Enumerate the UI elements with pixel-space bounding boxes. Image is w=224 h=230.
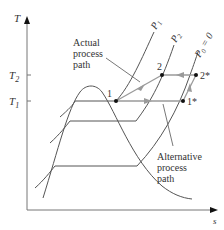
point-1: [114, 99, 118, 103]
actual-leader-line: [106, 58, 140, 82]
t2-label: T2: [9, 69, 19, 84]
p2-label: P2: [168, 30, 185, 46]
point-2-star: [194, 73, 198, 77]
svg-text:process: process: [73, 48, 103, 59]
alternative-annotation: Alternative process path: [157, 151, 203, 184]
svg-text:Alternative: Alternative: [157, 151, 203, 162]
t-axis-arrow-icon: [24, 16, 30, 24]
point-2-label: 2: [157, 61, 162, 72]
svg-text:path: path: [157, 173, 174, 184]
actual-annotation: Actual process path: [73, 37, 103, 70]
process-paths: [116, 75, 196, 101]
svg-text:path: path: [73, 59, 90, 70]
svg-text:Actual: Actual: [73, 37, 100, 48]
point-2: [160, 73, 164, 77]
t1-label: T1: [9, 95, 19, 110]
ts-diagram: T s T2 T1 P1 P2 P0 = 0 1 2 2* 1*: [0, 0, 224, 230]
svg-text:process: process: [157, 162, 187, 173]
point-2-star-label: 2*: [200, 70, 210, 81]
t-axis-label: T: [14, 12, 21, 24]
point-1-star: [181, 99, 185, 103]
axes: [24, 16, 218, 213]
arrow-icon: [176, 72, 184, 78]
point-1-star-label: 1*: [187, 96, 197, 107]
s-axis-arrow-icon: [210, 207, 218, 213]
alt-leader-line: [163, 104, 173, 146]
p0-label: P0 = 0: [192, 31, 217, 61]
isobar-p2: [50, 45, 174, 143]
arrow-icon: [137, 84, 145, 91]
p1-label: P1: [148, 17, 165, 33]
point-1-label: 1: [107, 88, 112, 99]
s-axis-label: s: [213, 216, 217, 226]
